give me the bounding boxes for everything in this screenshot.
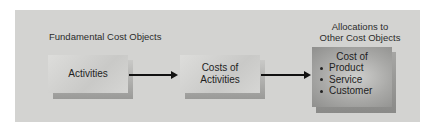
customer-label: Customer	[329, 85, 372, 96]
activities-box: Activities	[48, 55, 128, 93]
costs-of-activities-box: Costs of Activities	[180, 55, 260, 93]
list-item: Customer	[320, 85, 392, 97]
bullet-icon	[320, 78, 323, 81]
fundamental-cost-objects-title: Fundamental Cost Objects	[49, 31, 161, 42]
allocations-title: Allocations to Other Cost Objects	[300, 21, 420, 43]
arrow-activities-to-costs	[129, 74, 176, 76]
product-label: Product	[329, 62, 363, 73]
bullet-icon	[320, 90, 323, 93]
list-item: Product	[320, 62, 392, 74]
cost-of-heading: Cost of	[312, 51, 392, 62]
costs-of-activities-line1: Costs of	[200, 62, 239, 74]
list-item: Service	[320, 74, 392, 86]
arrow-costs-to-cost-objects	[261, 74, 309, 76]
cost-of-box: Cost of Product Service Customer	[312, 47, 392, 107]
cost-object-list: Product Service Customer	[312, 62, 392, 97]
allocations-title-line1: Allocations to	[300, 21, 420, 32]
costs-of-activities-line2: Activities	[200, 74, 239, 86]
bullet-icon	[320, 67, 323, 70]
allocations-title-line2: Other Cost Objects	[300, 32, 420, 43]
activities-label: Activities	[68, 68, 107, 80]
service-label: Service	[329, 74, 362, 85]
